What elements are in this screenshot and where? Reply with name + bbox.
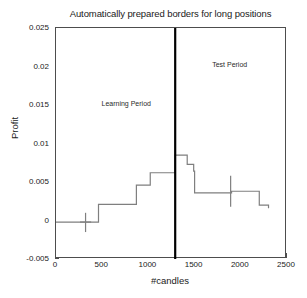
x-tick-label: 2000 [220,260,260,269]
x-tick-label: 1000 [127,260,167,269]
y-tick-label: 0.005 [3,177,49,186]
chart-figure: Automatically prepared borders for long … [0,0,307,298]
plot-area: Learning PeriodTest Period [55,27,286,258]
y-tick-label: 0 [3,215,49,224]
x-tick-label: 500 [81,260,121,269]
y-axis-label: Profit [9,117,20,139]
x-tick-label: 0 [35,260,75,269]
x-tick-label: 2500 [266,260,306,269]
chart-title: Automatically prepared borders for long … [55,8,286,19]
x-tick-label: 1500 [174,260,214,269]
y-tick-label: 0.015 [3,100,49,109]
profit-step-line [56,155,269,222]
y-tick-label: 0.025 [3,23,49,32]
plot-annotation: Test Period [212,61,247,68]
x-axis-label: #candles [151,275,189,286]
y-tick-label: 0.02 [3,61,49,70]
plot-canvas [56,28,287,259]
plot-annotation: Learning Period [102,100,151,107]
y-tick-label: 0.01 [3,138,49,147]
